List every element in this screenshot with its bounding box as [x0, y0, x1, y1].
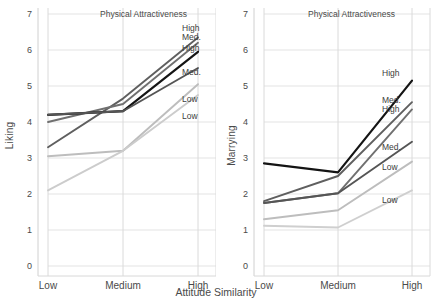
panel-marrying: Marrying 01234567LowMediumHighPhysical A…	[216, 0, 432, 303]
y-tick-label: 0	[18, 262, 32, 271]
y-tick-label: 6	[234, 46, 248, 55]
figure-container: Liking 01234567LowMediumHighPhysical Att…	[0, 0, 432, 303]
panel-liking: Liking 01234567LowMediumHighPhysical Att…	[0, 0, 216, 303]
series-label-med: Med.	[182, 68, 201, 77]
y-tick-label: 7	[18, 10, 32, 19]
y-axis-label-liking: Liking	[4, 110, 15, 162]
series-label-high: High	[182, 44, 199, 53]
y-tick-label: 0	[234, 262, 248, 271]
series-label-high: High	[382, 105, 399, 114]
series-label-low: Low	[182, 112, 198, 121]
y-tick-label: 3	[18, 154, 32, 163]
y-tick-label: 1	[18, 226, 32, 235]
y-tick-label: 6	[18, 46, 32, 55]
y-tick-label: 2	[18, 190, 32, 199]
panel-title: Physical Attractiveness	[100, 9, 187, 19]
series-label-med: Med.	[382, 143, 401, 152]
y-tick-label: 4	[18, 118, 32, 127]
y-tick-label: 4	[234, 118, 248, 127]
panel-title: Physical Attractiveness	[308, 9, 395, 19]
series-label-low: Low	[382, 163, 398, 172]
series-label-med: Med.	[182, 33, 201, 42]
y-tick-label: 3	[234, 154, 248, 163]
y-tick-label: 2	[234, 190, 248, 199]
series-label-low: Low	[382, 196, 398, 205]
y-tick-label: 1	[234, 226, 248, 235]
y-tick-label: 7	[234, 10, 248, 19]
y-tick-label: 5	[234, 82, 248, 91]
y-tick-label: 5	[18, 82, 32, 91]
series-label-low: Low	[182, 95, 198, 104]
x-axis-title: Attitude Similarity	[0, 286, 432, 298]
series-label-high: High	[382, 69, 399, 78]
